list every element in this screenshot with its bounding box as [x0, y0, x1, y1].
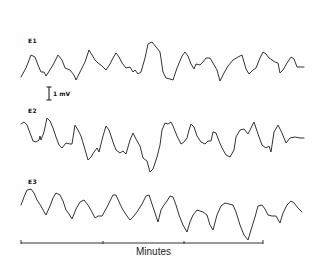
trace-e3 — [21, 189, 302, 240]
trace-e1 — [21, 42, 304, 81]
x-axis-label: Minutes — [136, 246, 171, 257]
trace-label-e3: E3 — [28, 178, 37, 185]
scale-bar-label: 1 mV — [53, 90, 70, 97]
time-axis — [21, 240, 263, 244]
trace-label-e1: E1 — [28, 37, 37, 44]
eeg-figure: E1 E2 E3 1 mV Minutes — [0, 0, 320, 273]
trace-e2 — [21, 118, 304, 172]
scale-bar-icon — [47, 87, 52, 100]
traces-plot — [0, 0, 320, 273]
trace-label-e2: E2 — [28, 107, 37, 114]
